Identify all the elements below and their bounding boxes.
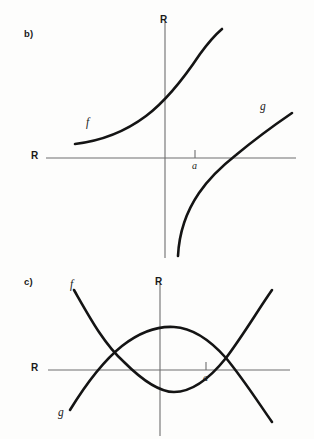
curve-label-f: f xyxy=(86,116,89,128)
panel-c: c) R R a f g xyxy=(0,258,314,439)
y-axis-label-R: R xyxy=(155,276,162,287)
tick-label-a: a xyxy=(192,160,197,171)
panel-b: b) R R a f g xyxy=(0,0,314,258)
tick-label-a: a xyxy=(203,372,208,383)
figure-root: b) R R a f g c) xyxy=(0,0,314,439)
curve-g xyxy=(70,327,272,422)
curve-label-g: g xyxy=(58,406,64,418)
panel-b-plot xyxy=(0,0,314,258)
x-axis-label-R: R xyxy=(31,150,38,161)
curve-f xyxy=(74,290,272,392)
curve-f xyxy=(75,29,222,144)
y-axis-label-R: R xyxy=(160,14,167,25)
curve-label-f: f xyxy=(70,278,73,290)
curve-label-g: g xyxy=(260,100,266,112)
x-axis-label-R: R xyxy=(31,362,38,373)
curve-g xyxy=(178,113,292,256)
